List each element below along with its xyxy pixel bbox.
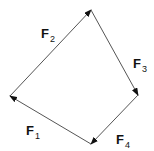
vector-f2-arrow: [10, 10, 91, 96]
vector-f4-arrow: [91, 95, 138, 144]
vector-f1-label: F1: [26, 123, 40, 141]
vector-f4-label: F4: [116, 132, 130, 150]
vector-f2-label: F2: [41, 26, 55, 44]
vector-f3-label: F3: [133, 56, 147, 74]
force-vector-polygon: F2F3F4F1: [0, 0, 154, 151]
vector-f3-arrow: [91, 10, 138, 95]
vector-f1-arrow: [10, 96, 91, 144]
